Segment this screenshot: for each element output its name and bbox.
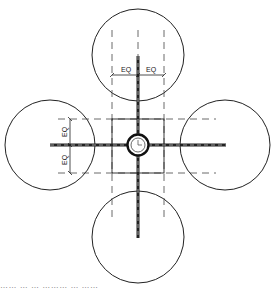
- center-post: [128, 135, 149, 156]
- technical-drawing: EQ EQ EQ EQ: [0, 0, 277, 291]
- left-dim-label-bottom: EQ: [61, 154, 69, 165]
- left-dim-label-top: EQ: [61, 126, 69, 137]
- top-dim-label-left: EQ: [121, 66, 132, 74]
- top-dim-label-right: EQ: [146, 66, 157, 74]
